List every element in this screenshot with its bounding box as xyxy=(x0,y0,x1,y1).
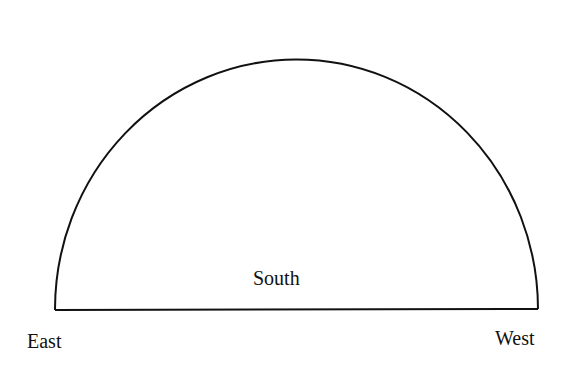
east-label: East xyxy=(27,331,61,351)
semicircle-diagram xyxy=(0,0,581,368)
south-label: South xyxy=(253,268,300,288)
horizon-baseline xyxy=(55,309,538,310)
west-label: West xyxy=(495,328,535,348)
